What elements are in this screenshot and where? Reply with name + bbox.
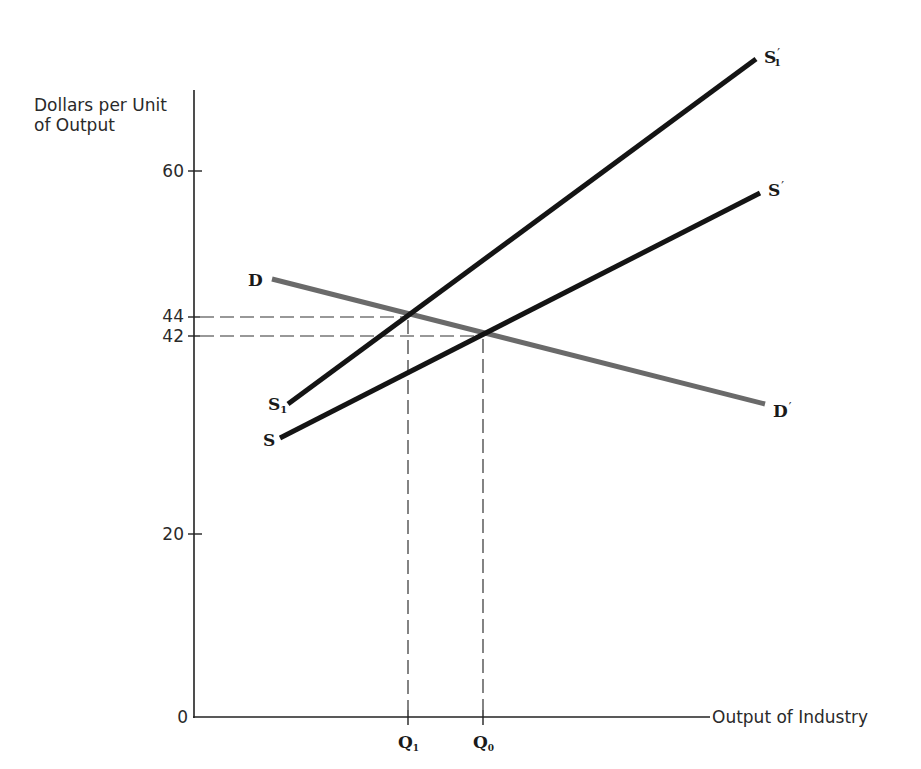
label-s1: S1 xyxy=(268,394,287,420)
label-d: D xyxy=(248,270,263,290)
tick-label-44: 44 xyxy=(144,306,184,326)
label-d-text: D xyxy=(248,270,263,290)
subscript-1: 1 xyxy=(413,743,419,753)
prime-mark: ′ xyxy=(789,401,792,415)
label-s1-prime: S′1 xyxy=(764,44,781,73)
label-s-prime: S′ xyxy=(768,177,784,200)
label-q1-text: Q xyxy=(398,732,413,752)
label-d-prime: D′ xyxy=(773,398,791,421)
tick-label-20: 20 xyxy=(144,524,184,544)
label-q0: Q0 xyxy=(473,732,494,753)
label-s1-text: S xyxy=(268,394,280,414)
tick-label-42: 42 xyxy=(144,326,184,346)
label-s-prime-text: S xyxy=(768,180,780,200)
supply-curve-s xyxy=(280,193,760,438)
y-axis-label-line1: Dollars per Unit xyxy=(34,95,167,115)
subscript-0: 0 xyxy=(488,743,494,753)
label-q1: Q1 xyxy=(398,732,419,753)
label-d-prime-text: D xyxy=(773,401,788,421)
x-axis-label: Output of Industry xyxy=(712,707,868,727)
tick-label-0: 0 xyxy=(148,707,188,727)
y-axis-label: Dollars per Unit of Output xyxy=(34,95,167,135)
subscript-1: 1 xyxy=(774,57,781,68)
y-axis-label-line2: of Output xyxy=(34,115,167,135)
label-s: S xyxy=(263,430,275,450)
tick-label-60: 60 xyxy=(144,161,184,181)
label-s-text: S xyxy=(263,430,275,450)
demand-curve xyxy=(272,279,765,404)
prime-mark: ′ xyxy=(781,180,784,194)
subscript-1: 1 xyxy=(280,404,287,415)
label-q0-text: Q xyxy=(473,732,488,752)
